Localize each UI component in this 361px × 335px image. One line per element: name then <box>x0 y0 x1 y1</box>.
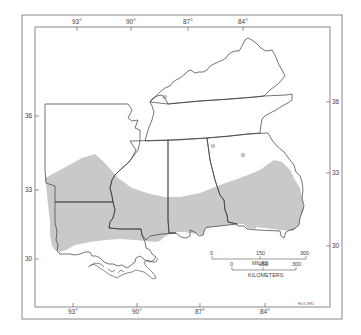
km-tick-300: 300 <box>292 261 301 267</box>
top-longitude-ticks <box>77 27 243 31</box>
state-tennessee <box>145 94 292 141</box>
bottom-lon-87: 87° <box>195 308 205 315</box>
outlier-dot-alabama <box>211 144 216 149</box>
right-lat-36: 36 <box>332 98 340 105</box>
coastline-islands <box>90 263 124 273</box>
top-lon-90: 90° <box>126 18 136 25</box>
bottom-longitude-ticks <box>73 303 265 307</box>
right-lat-30: 30 <box>332 242 340 249</box>
map-credit: HLG 1981 <box>298 302 314 306</box>
left-lat-36: 36 <box>25 112 33 119</box>
left-latitude-ticks <box>35 116 39 259</box>
miles-tick-0: 0 <box>210 250 213 256</box>
state-kentucky <box>150 38 285 104</box>
map-figure: 93° 90° 87° 84° 93° 90° 87° 84° 36 33 30… <box>0 0 361 335</box>
km-tick-0: 0 <box>230 261 233 267</box>
bottom-lon-84: 84° <box>260 308 270 315</box>
scale-bar-kilometers <box>232 267 296 270</box>
left-lat-33: 33 <box>25 186 33 193</box>
right-lat-33: 33 <box>332 169 340 176</box>
shaded-region <box>45 154 304 252</box>
km-tick-150: 150 <box>259 261 268 267</box>
miles-tick-300: 300 <box>300 250 309 256</box>
left-lat-30: 30 <box>25 255 33 262</box>
top-lon-87: 87° <box>183 18 193 25</box>
scale-bar-miles <box>212 256 306 259</box>
miles-tick-150: 150 <box>256 250 265 256</box>
outlier-dot-georgia <box>241 153 246 158</box>
right-latitude-ticks <box>326 102 330 246</box>
top-lon-84: 84° <box>238 18 248 25</box>
bottom-lon-90: 90° <box>132 308 142 315</box>
kilometers-label: KILOMETERS <box>248 272 284 278</box>
bottom-lon-93: 93° <box>68 308 78 315</box>
top-lon-93: 93° <box>72 18 82 25</box>
